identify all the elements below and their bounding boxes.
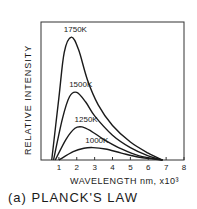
curve-label: 1000K: [85, 136, 109, 145]
plot-frame: [41, 22, 184, 160]
curve-1000K: [59, 148, 163, 160]
curve-labels: 1750K1500K1250K1000K: [64, 25, 109, 144]
x-tick-label: 4: [110, 163, 115, 172]
curve-label: 1750K: [64, 25, 88, 34]
y-axis-label: RELATIVE INTENSITY: [23, 45, 33, 155]
x-tick-label: 6: [146, 163, 151, 172]
x-tick-label: 1: [57, 163, 62, 172]
x-axis-label: WAVELENGTH nm, x10³: [70, 176, 179, 186]
planck-chart: 12345678 1750K1500K1250K1000K WAVELENGTH…: [0, 0, 197, 209]
x-tick-label: 7: [164, 163, 169, 172]
figure-caption: (a) PLANCK'S LAW: [8, 190, 138, 205]
x-tick-label: 2: [75, 163, 80, 172]
curve-label: 1250K: [75, 115, 99, 124]
x-tick-label: 5: [128, 163, 133, 172]
x-tick-label: 3: [92, 163, 97, 172]
x-tick-label: 8: [182, 163, 187, 172]
x-axis-ticks: 12345678: [57, 157, 187, 172]
curve-label: 1500K: [69, 80, 93, 89]
